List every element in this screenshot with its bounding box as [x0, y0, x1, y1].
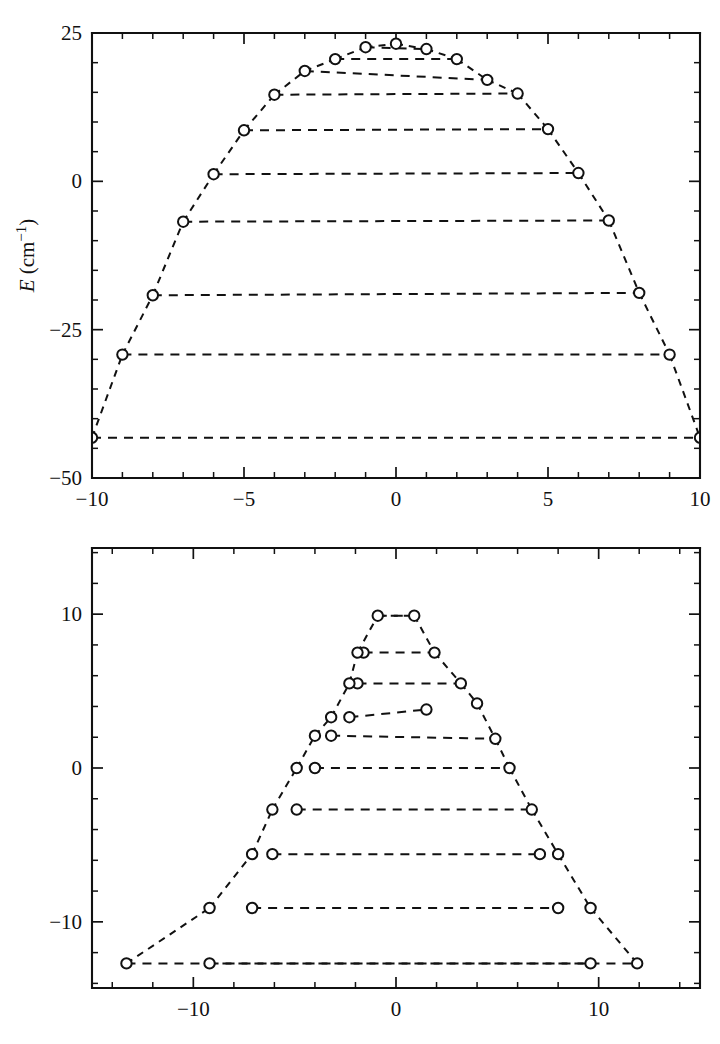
level-connector [558, 854, 590, 908]
x-tick-label: 10 [690, 487, 711, 511]
marker-group [121, 610, 642, 968]
data-point-marker [344, 712, 354, 722]
data-point-marker [239, 125, 249, 135]
y-tick-label: 0 [72, 169, 83, 193]
data-point-marker [664, 349, 674, 359]
data-point-marker [310, 730, 320, 740]
data-point-marker [204, 958, 214, 968]
level-connector [244, 95, 274, 131]
data-point-marker [326, 730, 336, 740]
level-connector [532, 810, 558, 855]
y-axis-title-unit: (cm [15, 242, 39, 280]
energy-level-rung [349, 710, 426, 718]
data-point-marker [604, 215, 614, 225]
data-point-marker [326, 712, 336, 722]
data-point-marker [267, 849, 277, 859]
data-point-marker [409, 610, 419, 620]
top-energy-level-panel: −10−50510−50−25025E (cm−1) [0, 0, 720, 520]
data-point-marker [291, 804, 301, 814]
level-connector [153, 222, 183, 296]
bottom-panel-canvas: −10010−10010 [0, 520, 720, 1044]
level-connector [272, 768, 296, 810]
data-point-marker [204, 903, 214, 913]
data-point-marker [452, 54, 462, 64]
data-point-marker [543, 124, 553, 134]
data-point-marker [504, 763, 514, 773]
level-connector [639, 293, 669, 355]
data-point-marker [352, 647, 362, 657]
figure-root: −10−50510−50−25025E (cm−1) −10010−10010 [0, 0, 720, 1044]
level-connector [518, 94, 548, 130]
data-point-marker [553, 903, 563, 913]
data-point-marker [482, 75, 492, 85]
level-connector [210, 854, 253, 908]
y-tick-label: −50 [49, 466, 82, 490]
level-connector [509, 768, 531, 810]
marker-group [87, 38, 705, 442]
level-connector [252, 810, 272, 855]
data-group [87, 38, 705, 442]
x-tick-label: −10 [76, 487, 109, 511]
bottom-panel-svg: −10010−10010 [0, 520, 720, 1044]
x-tick-label: 10 [588, 997, 609, 1021]
data-point-marker [632, 958, 642, 968]
ticklabel-group: −10010−10010 [49, 602, 609, 1021]
y-axis-title-exponent: −1 [13, 226, 29, 242]
level-connector [578, 173, 608, 220]
data-point-marker [490, 734, 500, 744]
data-point-marker [247, 903, 257, 913]
y-axis-title-symbol: E [15, 279, 39, 293]
data-point-marker [456, 678, 466, 688]
data-point-marker [121, 958, 131, 968]
energy-level-rung [305, 71, 487, 80]
energy-level-rung [214, 173, 579, 174]
data-point-marker [330, 54, 340, 64]
level-connector [414, 616, 434, 653]
data-point-marker [117, 349, 127, 359]
energy-level-rung [153, 293, 639, 295]
data-point-marker [585, 958, 595, 968]
top-panel-svg: −10−50510−50−25025E (cm−1) [0, 0, 720, 520]
energy-level-rung [244, 129, 548, 130]
x-tick-label: 0 [391, 997, 402, 1021]
x-tick-label: 5 [543, 487, 554, 511]
y-tick-label: 10 [61, 602, 82, 626]
data-point-marker [178, 216, 188, 226]
data-point-marker [421, 704, 431, 714]
x-tick-label: 0 [391, 487, 402, 511]
data-point-marker [344, 678, 354, 688]
level-connector [214, 130, 244, 174]
level-connector [183, 174, 213, 221]
y-tick-label: −10 [49, 910, 82, 934]
data-point-marker [267, 804, 277, 814]
energy-level-rung [274, 94, 517, 95]
data-point-marker [573, 168, 583, 178]
connector-group [92, 44, 700, 438]
y-tick-label: 0 [72, 756, 83, 780]
level-connector [357, 616, 377, 653]
level-connector [126, 908, 209, 963]
data-point-marker [585, 903, 595, 913]
x-tick-label: −5 [233, 487, 255, 511]
data-point-marker [208, 169, 218, 179]
y-axis-title: E (cm−1) [13, 219, 39, 294]
level-connector [591, 908, 638, 963]
data-point-marker [634, 288, 644, 298]
data-point-marker [421, 44, 431, 54]
data-point-marker [360, 42, 370, 52]
top-panel-plot-group: −10−50510−50−25025E (cm−1) [13, 21, 711, 511]
y-tick-label: −25 [49, 318, 82, 342]
data-point-marker [535, 849, 545, 859]
energy-level-rung [331, 736, 495, 739]
data-point-marker [269, 90, 279, 100]
data-point-marker [148, 290, 158, 300]
axes-frame [92, 33, 700, 478]
y-axis-title-close: ) [15, 219, 39, 226]
data-point-marker [391, 38, 401, 48]
level-connector [548, 129, 578, 173]
tick-group [92, 33, 700, 478]
x-tick-label: −10 [177, 997, 210, 1021]
level-connector [92, 355, 122, 438]
rung-group [92, 47, 700, 437]
data-point-marker [291, 763, 301, 773]
